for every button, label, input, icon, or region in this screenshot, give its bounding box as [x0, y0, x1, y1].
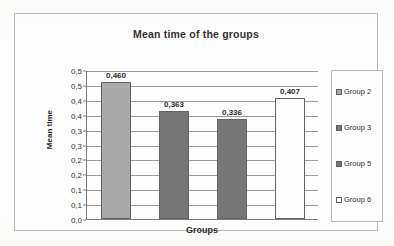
y-axis-tick-label: 0,3 — [71, 141, 82, 150]
legend-item[interactable]: Group 2 — [336, 87, 371, 96]
bar-value-label: 0,363 — [164, 100, 184, 109]
bar[interactable] — [101, 82, 131, 219]
y-axis-tick-labels: 0,50,50,40,40,30,30,20,20,10,10,0 — [59, 71, 86, 220]
chart-title: Mean time of the groups — [15, 28, 377, 40]
legend-swatch-icon — [336, 161, 342, 167]
chart-legend: Group 2Group 3Group 5Group 6 — [331, 70, 383, 222]
y-axis-tick-label: 0,5 — [71, 67, 82, 76]
y-axis-tick-label: 0,2 — [71, 171, 82, 180]
y-axis-title: Mean time — [45, 98, 54, 110]
bar-value-label: 0,460 — [106, 71, 126, 80]
y-axis-tick-label: 0,0 — [71, 216, 82, 225]
legend-item-label: Group 2 — [344, 87, 371, 96]
legend-item[interactable]: Group 3 — [336, 123, 371, 132]
bar-series: 0,4600,3630,3360,407 — [87, 71, 318, 219]
y-axis-title-label: Mean time — [45, 110, 54, 149]
bar[interactable] — [217, 119, 247, 219]
bar-slot: 0,336 — [203, 71, 261, 219]
bar-slot: 0,407 — [261, 71, 319, 219]
legend-swatch-icon — [336, 89, 342, 95]
y-axis-tick-label: 0,1 — [71, 201, 82, 210]
legend-item-label: Group 3 — [344, 123, 371, 132]
bar-slot: 0,363 — [145, 71, 203, 219]
legend-item-label: Group 6 — [344, 195, 371, 204]
chart-screenshot: Mean time of the groups Mean time 0,50,5… — [0, 0, 394, 246]
y-axis-tick-label: 0,2 — [71, 156, 82, 165]
x-axis-title: Groups — [86, 225, 318, 235]
legend-item-label: Group 5 — [344, 159, 371, 168]
legend-swatch-icon — [336, 125, 342, 131]
y-axis-tick-label: 0,5 — [71, 81, 82, 90]
legend-swatch-icon — [336, 197, 342, 203]
legend-item[interactable]: Group 6 — [336, 195, 371, 204]
bar-value-label: 0,407 — [280, 87, 300, 96]
bar[interactable] — [159, 111, 189, 219]
bar-slot: 0,460 — [87, 71, 145, 219]
y-axis-tick-label: 0,4 — [71, 111, 82, 120]
plot-area: 0,4600,3630,3360,407 — [86, 71, 318, 220]
bar-value-label: 0,336 — [222, 108, 242, 117]
y-axis-tick-label: 0,4 — [71, 96, 82, 105]
bar[interactable] — [275, 98, 305, 219]
y-axis-tick-label: 0,1 — [71, 186, 82, 195]
legend-item[interactable]: Group 5 — [336, 159, 371, 168]
chart-frame: Mean time of the groups Mean time 0,50,5… — [14, 13, 378, 231]
y-axis-tick-label: 0,3 — [71, 126, 82, 135]
